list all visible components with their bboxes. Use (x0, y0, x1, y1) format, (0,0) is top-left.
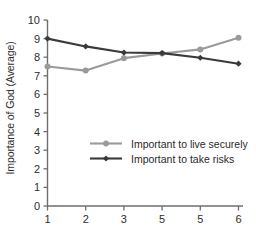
data-point-marker-circle (236, 35, 242, 41)
y-tick-label: 1 (34, 181, 40, 193)
x-tick-label: 3 (121, 213, 127, 225)
y-tick-label: 8 (34, 51, 40, 63)
y-tick-labels: 10 9 8 7 6 5 4 3 2 1 0 (28, 14, 40, 212)
y-tick-label: 0 (34, 200, 40, 212)
chart-legend: Important to live securely Important to … (90, 138, 248, 165)
data-point-marker-circle (197, 46, 203, 52)
y-tick-label: 10 (28, 14, 40, 26)
legend-label: Important to take risks (131, 153, 234, 165)
data-point-marker-diamond (197, 55, 203, 61)
legend-item-live-securely: Important to live securely (90, 138, 248, 150)
y-tick-label: 5 (34, 107, 40, 119)
x-tick-labels: 1 2 3 5 5 6 (44, 213, 241, 225)
legend-item-take-risks: Important to take risks (90, 153, 234, 165)
y-tick-label: 3 (34, 144, 40, 156)
y-tick-label: 4 (34, 126, 40, 138)
series-important-to-live-securely (45, 35, 242, 74)
series-line (48, 39, 239, 64)
chart-plot-area: 10 9 8 7 6 5 4 3 2 1 0 1 2 3 5 5 (0, 0, 256, 237)
y-tick-label: 7 (34, 70, 40, 82)
data-point-marker-diamond (121, 49, 127, 55)
x-tick-label: 6 (235, 213, 241, 225)
legend-marker-diamond (103, 155, 109, 161)
data-series-layer (44, 35, 241, 74)
y-tick-label: 2 (34, 163, 40, 175)
data-point-marker-diamond (235, 61, 241, 67)
chart-figure: Importance of God (Average) 10 9 8 7 6 (0, 0, 256, 237)
x-tick-label: 5 (159, 213, 165, 225)
x-tick-label: 2 (83, 213, 89, 225)
data-point-marker-circle (83, 68, 89, 74)
data-point-marker-diamond (83, 43, 89, 49)
data-point-marker-circle (121, 55, 127, 61)
x-tick-label: 5 (197, 213, 203, 225)
series-important-to-take-risks (44, 36, 241, 67)
y-tick-label: 6 (34, 88, 40, 100)
y-tick-label: 9 (34, 33, 40, 45)
legend-label: Important to live securely (131, 138, 248, 150)
legend-marker-circle (103, 141, 109, 147)
data-point-marker-diamond (44, 36, 50, 42)
data-point-marker-circle (45, 64, 51, 70)
series-line (48, 38, 239, 71)
x-tick-label: 1 (44, 213, 50, 225)
